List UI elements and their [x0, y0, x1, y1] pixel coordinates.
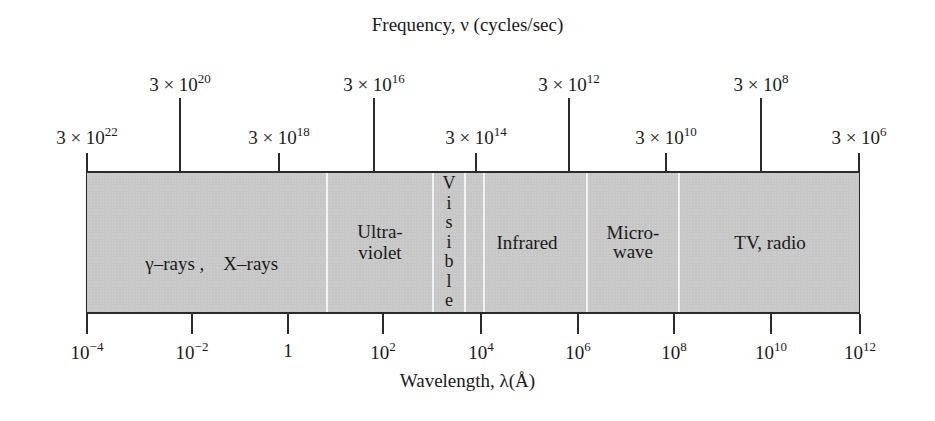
band-label-line2: wave — [607, 242, 660, 261]
band-label-line1: Micro- — [607, 223, 660, 242]
wavelength-tick — [480, 314, 482, 334]
wavelength-tick-label: 1012 — [844, 340, 876, 364]
tick-label-base: 10 — [468, 342, 487, 363]
band-visible: Visible — [443, 174, 456, 311]
band-label-line1: Ultra- — [357, 221, 402, 242]
frequency-tick-label: 3 × 1022 — [56, 125, 118, 149]
band-microwave: Micro- wave — [607, 223, 660, 261]
tick-label-base: 3 × 10 — [56, 127, 105, 148]
tick-label-base: 3 × 10 — [343, 74, 392, 95]
band-label-line2: violet — [357, 242, 402, 263]
frequency-tick — [278, 153, 280, 172]
tick-label-exponent: 12 — [587, 71, 600, 86]
wavelength-tick — [287, 314, 289, 334]
tick-label-exponent: 22 — [105, 124, 118, 139]
wavelength-tick — [673, 314, 675, 334]
tick-label-exponent: 6 — [584, 339, 591, 354]
frequency-tick-label: 3 × 1010 — [635, 125, 697, 149]
tick-label-base: 3 × 10 — [733, 74, 782, 95]
frequency-tick-label: 3 × 1012 — [538, 72, 600, 96]
frequency-tick — [179, 98, 181, 172]
tick-label-base: 3 × 10 — [538, 74, 587, 95]
visible-letter: i — [443, 194, 456, 214]
band-divider — [586, 173, 588, 312]
frequency-tick — [373, 98, 375, 172]
band-label: γ–rays , X–rays — [145, 253, 278, 274]
tick-label-exponent: −2 — [195, 339, 209, 354]
band-gamma-x-rays: γ–rays , X–rays — [136, 232, 278, 274]
tick-label-base: 10 — [755, 342, 774, 363]
frequency-tick — [568, 98, 570, 172]
visible-letter: s — [443, 213, 456, 233]
tick-label-base: 10 — [565, 342, 584, 363]
frequency-tick — [86, 153, 88, 172]
tick-label-exponent: 8 — [680, 339, 687, 354]
frequency-tick — [665, 153, 667, 172]
wavelength-tick-label: 10−4 — [71, 340, 104, 364]
band-divider — [678, 173, 680, 312]
wavelength-tick-label: 104 — [468, 340, 494, 364]
band-divider — [464, 173, 466, 312]
wavelength-tick — [770, 314, 772, 334]
wavelength-tick-label: 10−2 — [176, 340, 209, 364]
wavelength-tick-label: 102 — [370, 340, 396, 364]
tick-label-base: 10 — [176, 342, 195, 363]
frequency-tick — [760, 98, 762, 172]
wavelength-tick-label: 106 — [565, 340, 591, 364]
tick-label-base: 3 × 10 — [831, 127, 880, 148]
tick-label-base: 3 × 10 — [248, 127, 297, 148]
band-infrared: Infrared — [496, 232, 557, 253]
tick-label-exponent: 4 — [487, 339, 494, 354]
frequency-tick — [858, 153, 860, 172]
visible-letter: l — [443, 272, 456, 292]
wavelength-tick-label: 1010 — [755, 340, 787, 364]
wavelength-tick — [191, 314, 193, 334]
frequency-tick-label: 3 × 1018 — [248, 125, 310, 149]
tick-label-exponent: 2 — [389, 339, 396, 354]
band-ultraviolet: Ultra- violet — [357, 221, 402, 263]
tick-label-exponent: 20 — [198, 71, 211, 86]
tick-label-exponent: 6 — [880, 124, 887, 139]
visible-letter: e — [443, 291, 456, 311]
frequency-tick-label: 3 × 1014 — [445, 125, 507, 149]
tick-label-base: 3 × 10 — [445, 127, 494, 148]
tick-label-exponent: 14 — [494, 124, 507, 139]
band-tv-radio: TV, radio — [734, 232, 805, 253]
frequency-tick — [475, 153, 477, 172]
tick-label-exponent: 10 — [774, 339, 787, 354]
tick-label-exponent: 8 — [782, 71, 789, 86]
visible-letter: i — [443, 233, 456, 253]
wavelength-tick-label: 1 — [283, 340, 293, 362]
tick-label-exponent: 12 — [863, 339, 876, 354]
x-axis-label: Wavelength, λ(Å) — [0, 370, 935, 392]
wavelength-tick — [859, 314, 861, 334]
band-divider — [326, 173, 328, 312]
tick-label-base: 10 — [71, 342, 90, 363]
band-label: Infrared — [496, 232, 557, 253]
visible-letter: V — [443, 174, 456, 194]
wavelength-tick — [577, 314, 579, 334]
tick-label-base: 10 — [370, 342, 389, 363]
tick-label-base: 3 × 10 — [149, 74, 198, 95]
tick-label-base: 10 — [661, 342, 680, 363]
wavelength-tick-label: 108 — [661, 340, 687, 364]
band-divider — [483, 173, 485, 312]
tick-label-base: 10 — [844, 342, 863, 363]
frequency-tick-label: 3 × 1016 — [343, 72, 405, 96]
frequency-tick-label: 3 × 108 — [733, 72, 788, 96]
band-label: TV, radio — [734, 232, 805, 253]
tick-label-exponent: 18 — [297, 124, 310, 139]
visible-letter: b — [443, 252, 456, 272]
tick-label-exponent: 16 — [392, 71, 405, 86]
tick-label-exponent: 10 — [684, 124, 697, 139]
tick-label-base: 1 — [283, 340, 293, 361]
wavelength-tick — [86, 314, 88, 334]
chart-title: Frequency, ν (cycles/sec) — [0, 14, 935, 36]
wavelength-tick — [382, 314, 384, 334]
tick-label-base: 3 × 10 — [635, 127, 684, 148]
band-divider — [432, 173, 434, 312]
frequency-tick-label: 3 × 1020 — [149, 72, 211, 96]
tick-label-exponent: −4 — [90, 339, 104, 354]
frequency-tick-label: 3 × 106 — [831, 125, 886, 149]
